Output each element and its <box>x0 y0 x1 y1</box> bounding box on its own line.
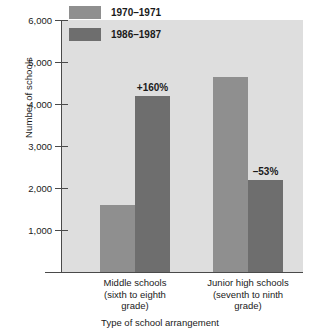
legend-swatch <box>69 28 101 41</box>
x-axis-category-label-line: Junior high schools <box>188 277 308 289</box>
y-axis-tick <box>55 230 68 231</box>
y-axis-tick-label: 6,000 <box>0 15 52 26</box>
x-axis-category-label-line: grade) <box>75 300 195 312</box>
legend-item: 1970–1971 <box>69 4 161 21</box>
y-axis-tick <box>55 188 68 189</box>
bar <box>135 96 170 272</box>
bar-value-annotation: –53% <box>253 166 279 177</box>
bar <box>100 205 135 272</box>
y-axis-tick <box>55 20 68 21</box>
legend-label: 1970–1971 <box>111 7 161 18</box>
x-axis-title: Type of school arrangement <box>0 317 320 328</box>
y-axis-tick <box>55 104 68 105</box>
y-axis-tick <box>55 146 68 147</box>
y-axis-tick-label: 3,000 <box>0 141 52 152</box>
y-axis-tick-label: 5,000 <box>0 57 52 68</box>
bar-value-annotation: +160% <box>137 82 168 93</box>
legend-label: 1986–1987 <box>111 29 161 40</box>
legend-swatch <box>69 6 101 19</box>
x-axis-category-label-line: Middle schools <box>75 277 195 289</box>
x-axis-category-label-line: (sixth to eighth <box>75 289 195 301</box>
x-axis-category-label: Middle schools(sixth to eighthgrade) <box>75 277 195 312</box>
x-axis-line <box>45 272 303 273</box>
x-axis-category-label-line: grade) <box>188 300 308 312</box>
legend-item: 1986–1987 <box>69 26 161 43</box>
legend: 1970–19711986–1987 <box>69 4 161 48</box>
y-axis-tick-label: 2,000 <box>0 183 52 194</box>
y-axis-tick-label: 1,000 <box>0 225 52 236</box>
bar <box>248 180 283 272</box>
x-axis-category-label-line: (seventh to ninth <box>188 289 308 301</box>
x-axis-category-label: Junior high schools(seventh to ninthgrad… <box>188 277 308 312</box>
bar-chart-figure: Number of schools 1,0002,0003,0004,0005,… <box>0 0 320 334</box>
y-axis-tick-label: 4,000 <box>0 99 52 110</box>
y-axis-title: Number of schools <box>23 18 34 178</box>
y-axis-tick <box>55 62 68 63</box>
bar <box>213 77 248 272</box>
